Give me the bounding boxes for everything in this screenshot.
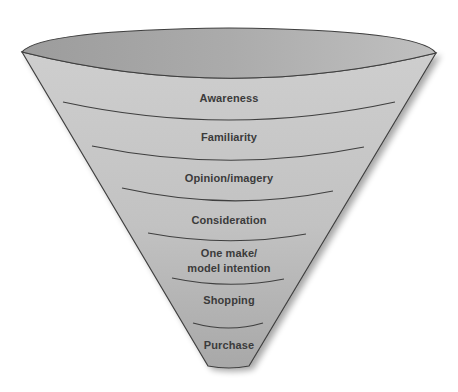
stage-label-text: Purchase xyxy=(204,338,254,353)
stage-label-text-line-2: model intention xyxy=(187,261,270,276)
funnel-diagram xyxy=(0,0,458,392)
stage-consideration: Consideration xyxy=(191,213,266,228)
stage-one-make-model-intention: One make/ model intention xyxy=(187,246,270,276)
stage-opinion-imagery: Opinion/imagery xyxy=(185,171,273,186)
stage-label-text-line-1: One make/ xyxy=(187,246,270,261)
stage-label-text: Awareness xyxy=(200,91,259,106)
stage-purchase: Purchase xyxy=(204,338,254,353)
stage-label-text: Shopping xyxy=(203,293,255,308)
stage-label-text: Familiarity xyxy=(201,130,257,145)
stage-label-text: Opinion/imagery xyxy=(185,171,273,186)
stage-awareness: Awareness xyxy=(200,91,259,106)
stage-familiarity: Familiarity xyxy=(201,130,257,145)
stage-label-text: Consideration xyxy=(191,213,266,228)
stage-shopping: Shopping xyxy=(203,293,255,308)
